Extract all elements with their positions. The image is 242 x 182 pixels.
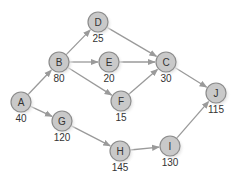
node-value: 130 [162, 157, 179, 168]
diagram-canvas: A40B80D25E20C30F15G120H145I130J115 [0, 0, 242, 182]
node-g: G120 [51, 110, 77, 143]
node-value: 120 [54, 132, 71, 143]
node-value: 30 [160, 73, 172, 84]
node-b: B80 [48, 51, 74, 84]
node-value: 20 [103, 73, 115, 84]
node-value: 145 [112, 162, 129, 173]
node-label: F [118, 96, 124, 107]
node-label: E [106, 57, 113, 68]
node-label: A [18, 97, 25, 108]
node-value: 80 [53, 73, 65, 84]
node-label: D [94, 17, 101, 28]
network-diagram: A40B80D25E20C30F15G120H145I130J115 [0, 0, 242, 182]
edge-a-b [28, 70, 52, 95]
node-label: C [162, 57, 169, 68]
node-value: 25 [92, 33, 104, 44]
node-label: B [56, 57, 63, 68]
node-e: E20 [98, 51, 124, 84]
edge-g-h [71, 126, 110, 146]
node-value: 15 [115, 112, 127, 123]
node-j: J115 [205, 82, 231, 115]
node-d: D25 [87, 11, 113, 44]
node-label: J [214, 88, 219, 99]
node-label: H [116, 146, 123, 157]
node-c: C30 [155, 51, 181, 84]
node-value: 40 [15, 113, 27, 124]
edge-f-c [129, 69, 158, 94]
edge-i-j [177, 101, 209, 138]
node-label: G [58, 116, 66, 127]
node-i: I130 [159, 135, 185, 168]
node-label: I [169, 141, 172, 152]
node-h: H145 [109, 140, 135, 173]
node-a: A40 [10, 91, 36, 124]
node-value: 115 [208, 104, 224, 115]
edge-b-d [66, 30, 90, 55]
node-f: F15 [110, 90, 136, 123]
